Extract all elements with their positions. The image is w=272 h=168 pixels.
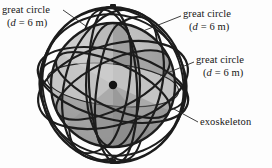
center-point-marker [109,81,117,89]
label-great-circle-top-right: great circle (d = 6 m) [183,8,231,33]
label-exoskeleton-line1: exoskeleton [200,116,251,127]
figure-container: great circle (d = 6 m) great circle (d =… [0,0,272,168]
label-great-circle-top-right-line1: great circle [183,8,231,19]
label-great-circle-top-left: great circle (d = 6 m) [2,4,50,29]
label-exoskeleton: exoskeleton [200,116,251,129]
label-great-circle-top-right-line2: (d = 6 m) [183,21,231,34]
label-great-circle-right-line1: great circle [196,54,244,65]
label-great-circle-right: great circle (d = 6 m) [196,54,244,79]
label-great-circle-top-left-line1: great circle [2,4,50,15]
label-great-circle-right-line2: (d = 6 m) [196,67,244,80]
label-great-circle-top-left-line2: (d = 6 m) [2,17,50,30]
